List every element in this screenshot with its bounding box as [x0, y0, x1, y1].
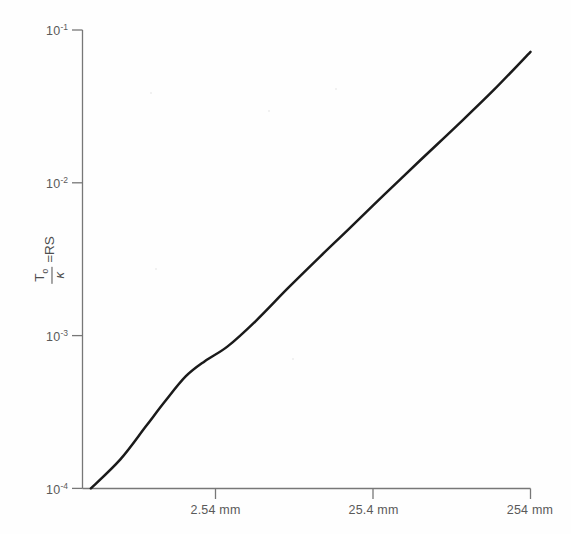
numerator-symbol: T [32, 274, 47, 282]
data-series-line [91, 52, 531, 489]
y-tick-label-1e-4: 10-4 [22, 481, 68, 497]
exponent: -1 [60, 22, 68, 32]
numerator-subscript: o [40, 269, 50, 274]
x-tick-label-25.4mm: 25.4 mm [323, 503, 424, 517]
exponent: -4 [60, 481, 68, 491]
y-tick-label-1e-3: 10-3 [22, 328, 68, 344]
y-axis-label-content: To κ =RS [33, 236, 66, 284]
fraction-denominator: κ [53, 270, 67, 281]
fraction: To κ [33, 267, 66, 284]
y-tick-label-1e-2: 10-2 [22, 175, 68, 191]
equals-rs: =RS [43, 236, 58, 263]
y-tick-label-1e-1: 10-1 [22, 22, 68, 38]
fraction-numerator: To [33, 267, 50, 284]
plot-area [0, 0, 571, 534]
chart-figure: 10-1 10-2 10-3 10-4 2.54 mm 25.4 mm 254 … [0, 0, 571, 534]
y-axis-label: To κ =RS [18, 228, 82, 292]
exponent: -3 [60, 328, 68, 338]
exponent: -2 [60, 175, 68, 185]
x-tick-label-254mm: 254 mm [482, 503, 571, 517]
x-tick-label-2.54mm: 2.54 mm [165, 503, 266, 517]
